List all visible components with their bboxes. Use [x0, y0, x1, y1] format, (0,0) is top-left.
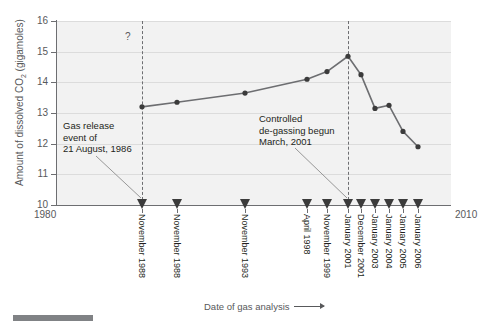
annotation-degassing-line3: March, 2001	[259, 136, 335, 148]
event-line-degassing	[348, 21, 349, 205]
annotation-gas-release: Gas release event of 21 August, 1986	[63, 120, 132, 155]
gridline-11	[57, 174, 451, 175]
event-marker-label: November 1999	[322, 214, 331, 278]
arrow-right-icon	[294, 306, 324, 307]
y-axis-title-units: (gigamoles)	[14, 19, 25, 74]
event-marker-label: April 1998	[302, 214, 311, 255]
event-marker-stem	[375, 209, 376, 213]
event-marker-triangle	[240, 199, 250, 209]
event-marker-triangle	[370, 199, 380, 209]
y-tick-label-15: 15	[28, 47, 48, 57]
event-marker-stem	[418, 209, 419, 213]
event-marker-stem	[403, 209, 404, 213]
gridline-16	[57, 21, 451, 22]
event-marker-triangle	[343, 199, 353, 209]
event-marker-triangle	[413, 199, 423, 209]
y-tick-12	[51, 144, 57, 145]
x-axis-title-text: Date of gas analysis	[204, 301, 290, 312]
y-tick-label-12: 12	[28, 139, 48, 149]
y-axis-title: Amount of dissolved CO2 (gigamoles)	[14, 13, 29, 193]
y-tick-14	[51, 82, 57, 83]
event-marker-label: January 2004	[384, 214, 393, 269]
event-marker-stem	[348, 209, 349, 213]
annotation-gas-release-line2: event of	[63, 132, 132, 144]
gridline-15	[57, 52, 451, 53]
event-marker-triangle	[398, 199, 408, 209]
event-marker-label: January 2006	[413, 214, 422, 269]
question-mark-annotation: ?	[125, 31, 131, 42]
event-marker-label: November 1988	[137, 214, 146, 278]
event-marker-stem	[361, 209, 362, 213]
event-marker-triangle	[172, 199, 182, 209]
event-marker-label: January 2001	[343, 214, 352, 269]
gridline-14	[57, 82, 451, 83]
y-axis-title-subscript: 2	[20, 74, 27, 78]
y-tick-15	[51, 52, 57, 53]
y-tick-label-16: 16	[28, 16, 48, 26]
y-tick-16	[51, 21, 57, 22]
event-marker-triangle	[302, 199, 312, 209]
annotation-degassing-line2: de-gassing begun	[259, 125, 335, 137]
caption-bar	[13, 315, 93, 321]
event-marker-label: December 2001	[356, 214, 365, 278]
event-marker-stem	[245, 209, 246, 213]
event-marker-stem	[389, 209, 390, 213]
event-marker-stem	[307, 209, 308, 213]
annotation-gas-release-line3: 21 August, 1986	[63, 143, 132, 155]
event-marker-label: January 2005	[398, 214, 407, 269]
event-marker-triangle	[356, 199, 366, 209]
y-tick-label-11: 11	[28, 169, 48, 179]
y-tick-label-13: 13	[28, 108, 48, 118]
annotation-degassing: Controlled de-gassing begun March, 2001	[259, 113, 335, 148]
x-axis-title: Date of gas analysis	[204, 301, 324, 312]
event-marker-label: January 2003	[370, 214, 379, 269]
y-tick-label-14: 14	[28, 77, 48, 87]
y-tick-13	[51, 113, 57, 114]
event-marker-triangle	[384, 199, 394, 209]
event-marker-stem	[327, 209, 328, 213]
event-marker-label: November 1993	[240, 214, 249, 278]
annotation-degassing-line1: Controlled	[259, 113, 335, 125]
gridline-13	[57, 113, 451, 114]
co2-line-chart-figure: 16 15 14 13 12 11 10 Amount of dissolved…	[0, 0, 491, 326]
event-marker-triangle	[322, 199, 332, 209]
y-tick-10	[51, 205, 57, 206]
event-marker-stem	[177, 209, 178, 213]
event-marker-stem	[142, 209, 143, 213]
plot-area	[57, 21, 451, 205]
x-axis-end-label: 2010	[455, 210, 477, 220]
y-axis-title-main: Amount of dissolved CO	[14, 78, 25, 186]
annotation-gas-release-line1: Gas release	[63, 120, 132, 132]
y-tick-11	[51, 174, 57, 175]
event-marker-triangle	[137, 199, 147, 209]
event-line-gas-release	[142, 21, 143, 205]
x-axis-start-label: 1980	[34, 210, 56, 220]
event-marker-label: November 1988	[172, 214, 181, 278]
